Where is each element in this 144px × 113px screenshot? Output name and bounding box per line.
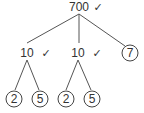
edge-root-right (79, 14, 125, 46)
edge-left-a (15, 60, 27, 90)
edge-middle-a (66, 60, 78, 90)
factor-tree-svg: 700 ✓ 10 ✓ 10 ✓ 7 2 5 2 5 (0, 0, 144, 113)
edge-left-b (27, 60, 39, 90)
factor-tree-diagram: 700 ✓ 10 ✓ 10 ✓ 7 2 5 2 5 (0, 0, 144, 113)
node-left-a-value: 2 (11, 92, 18, 106)
node-middle-a-value: 2 (63, 92, 70, 106)
edge-middle-b (78, 60, 91, 90)
node-right-value: 7 (127, 46, 134, 60)
check-icon: ✓ (92, 47, 101, 60)
node-left-value: 10 (20, 46, 34, 60)
edge-root-left (27, 14, 79, 43)
node-middle-value: 10 (71, 46, 85, 60)
check-icon: ✓ (93, 1, 102, 14)
node-middle-b-value: 5 (89, 92, 96, 106)
check-icon: ✓ (41, 47, 50, 60)
node-root-value: 700 (69, 0, 89, 14)
node-left-b-value: 5 (37, 92, 44, 106)
